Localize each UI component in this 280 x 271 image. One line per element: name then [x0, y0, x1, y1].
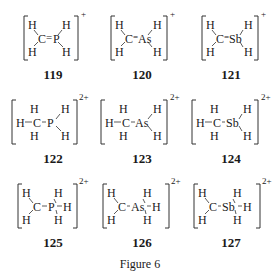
structure-122: H H H C P H H 2+ 122: [8, 88, 98, 170]
h-atom: H: [206, 46, 215, 58]
h-atom: H: [153, 103, 162, 115]
double-bond: =: [46, 31, 52, 43]
h-atom: H: [196, 117, 205, 129]
structure-120: H H C = As H H + 120: [97, 4, 187, 86]
h-atom: H: [153, 46, 162, 58]
carbon-atom: C: [33, 201, 41, 213]
compound-number: 124: [186, 152, 276, 165]
central-atom: Sb: [226, 117, 239, 129]
h-atom: H: [16, 117, 25, 129]
h-atom: H: [54, 214, 63, 226]
h-atom: H: [22, 187, 31, 199]
central-atom: P: [47, 117, 54, 129]
h-atom: H: [233, 214, 242, 226]
h-atom: H: [244, 19, 253, 31]
h-atom: H: [107, 214, 116, 226]
carbon-atom: C: [209, 201, 217, 213]
central-atom: As: [138, 33, 151, 45]
h-atom: H: [198, 214, 207, 226]
carbon-atom: C: [216, 33, 224, 45]
molecule-diagram: H H C As H H H 2+: [97, 172, 187, 234]
molecule-diagram: H H C = As H H +: [97, 4, 187, 66]
h-atom: H: [61, 130, 70, 142]
h-atom: H: [153, 130, 162, 142]
h-atom: H: [115, 46, 124, 58]
structure-127: H H C Sb H H H 2+ 127: [186, 172, 276, 254]
molecule-diagram: H H C Sb H H H 2+: [186, 172, 276, 234]
charge-label: 2+: [79, 93, 89, 102]
charge-label: +: [261, 10, 266, 19]
h-atom: H: [22, 214, 31, 226]
charge-label: +: [170, 10, 175, 19]
h-atom: H: [198, 187, 207, 199]
compound-number: 120: [97, 68, 187, 81]
molecule-diagram: H H H C As H H 2+: [97, 88, 187, 150]
structure-124: H H H C Sb H H 2+ 124: [186, 88, 276, 170]
structure-126: H H C As H H H 2+ 126: [97, 172, 187, 254]
h-atom: H: [28, 46, 37, 58]
figure-caption: Figure 6: [0, 258, 280, 270]
h-atom: H: [153, 19, 162, 31]
h-atom: H: [143, 214, 152, 226]
carbon-atom: C: [125, 33, 133, 45]
molecule-diagram: H H C = P H H +: [8, 4, 98, 66]
structure-119: H H C = P H H + 119: [8, 4, 98, 86]
h-atom: H: [206, 19, 215, 31]
carbon-atom: C: [213, 117, 221, 129]
compound-number: 121: [186, 68, 276, 81]
molecule-diagram: H H H C Sb H H 2+: [186, 88, 276, 150]
carbon-atom: C: [122, 117, 130, 129]
h-atom: H: [30, 103, 39, 115]
central-atom: P: [48, 201, 55, 213]
h-atom: H: [62, 46, 71, 58]
structure-125: H H C P H H H 2+ 125: [8, 172, 98, 254]
compound-number: 125: [8, 236, 98, 249]
h-atom: H: [210, 103, 219, 115]
charge-label: 2+: [261, 93, 271, 102]
h-atom: H: [28, 19, 37, 31]
h-atom: H: [243, 130, 252, 142]
compound-number: 119: [8, 68, 98, 81]
h-atom: H: [63, 201, 72, 213]
charge-label: 2+: [262, 177, 272, 186]
h-atom: H: [61, 103, 70, 115]
compound-number: 126: [97, 236, 187, 249]
carbon-atom: C: [118, 201, 126, 213]
compound-number: 122: [8, 152, 98, 165]
central-atom: Sb: [229, 33, 242, 45]
central-atom: As: [135, 117, 148, 129]
molecule-diagram: H H H C P H H 2+: [8, 88, 98, 150]
h-atom: H: [54, 187, 63, 199]
central-atom: P: [53, 33, 60, 45]
h-atom: H: [244, 46, 253, 58]
compound-number: 127: [186, 236, 276, 249]
charge-label: 2+: [170, 93, 180, 102]
structure-121: H H C = Sb H H + 121: [186, 4, 276, 86]
h-atom: H: [210, 130, 219, 142]
h-atom: H: [152, 201, 161, 213]
molecule-diagram: H H C P H H H 2+: [8, 172, 98, 234]
h-atom: H: [115, 19, 124, 31]
h-atom: H: [233, 187, 242, 199]
central-atom: Sb: [222, 201, 235, 213]
charge-label: 2+: [171, 177, 181, 186]
central-atom: As: [131, 201, 144, 213]
h-atom: H: [243, 103, 252, 115]
compound-number: 123: [97, 152, 187, 165]
h-atom: H: [30, 130, 39, 142]
h-atom: H: [119, 130, 128, 142]
h-atom: H: [119, 103, 128, 115]
h-atom: H: [105, 117, 114, 129]
h-atom: H: [243, 201, 252, 213]
h-atom: H: [143, 187, 152, 199]
structure-123: H H H C As H H 2+ 123: [97, 88, 187, 170]
charge-label: 2+: [79, 177, 89, 186]
carbon-atom: C: [33, 117, 41, 129]
carbon-atom: C: [38, 33, 46, 45]
molecule-diagram: H H C = Sb H H +: [186, 4, 276, 66]
h-atom: H: [62, 19, 71, 31]
charge-label: +: [81, 10, 86, 19]
h-atom: H: [107, 187, 116, 199]
